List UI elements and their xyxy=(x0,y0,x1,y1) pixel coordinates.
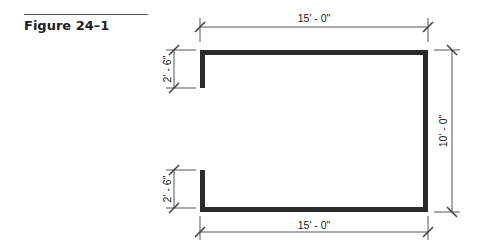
dim-left-top-segment: 2' - 6" xyxy=(161,55,173,82)
upper-wall xyxy=(203,53,426,210)
dim-top-width: 15' - 0" xyxy=(298,12,331,24)
floor-plan-drawing: 15' - 0" 15' - 0" 10' - 0" 2' - 6" 2' - … xyxy=(0,0,492,251)
dim-right-height: 10' - 0" xyxy=(437,114,449,147)
dim-bottom-width: 15' - 0" xyxy=(298,219,331,231)
walls xyxy=(203,53,426,210)
dim-left-bottom-segment: 2' - 6" xyxy=(161,175,173,202)
